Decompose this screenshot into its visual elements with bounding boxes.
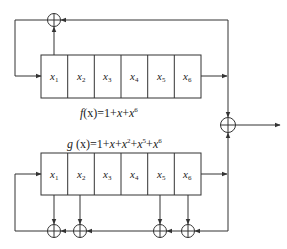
xor-icon-g5: [154, 225, 167, 238]
caption-g: g (x)=1+x+x2+x5+x6: [67, 137, 162, 151]
cell-f-5: x5: [156, 70, 166, 84]
cell-f-1: x1: [49, 70, 59, 84]
cell-g-1: x1: [49, 168, 59, 182]
cell-f-2: x2: [76, 70, 86, 84]
cell-f-4: x4: [129, 70, 139, 84]
xor-icon-output: [221, 118, 236, 133]
xor-icon-g2: [74, 225, 87, 238]
cell-f-3: x3: [102, 70, 112, 84]
xor-icon-f: [48, 14, 61, 27]
cell-g-4: x4: [129, 168, 139, 182]
lfsr-diagram: x1 x2 x3 x4 x5 x6 f(x)=1+x+x6 g (x)=1+x+…: [0, 0, 287, 249]
register-f-labels: x1 x2 x3 x4 x5 x6: [49, 70, 192, 84]
xor-icon-g6: [182, 225, 195, 238]
cell-g-6: x6: [182, 168, 192, 182]
cell-g-3: x3: [102, 168, 112, 182]
cell-f-6: x6: [182, 70, 192, 84]
cell-g-5: x5: [156, 168, 166, 182]
cell-g-2: x2: [76, 168, 86, 182]
register-g-labels: x1 x2 x3 x4 x5 x6: [49, 168, 192, 182]
xor-icon-g1: [48, 225, 61, 238]
caption-f: f(x)=1+x+x6: [80, 106, 138, 120]
